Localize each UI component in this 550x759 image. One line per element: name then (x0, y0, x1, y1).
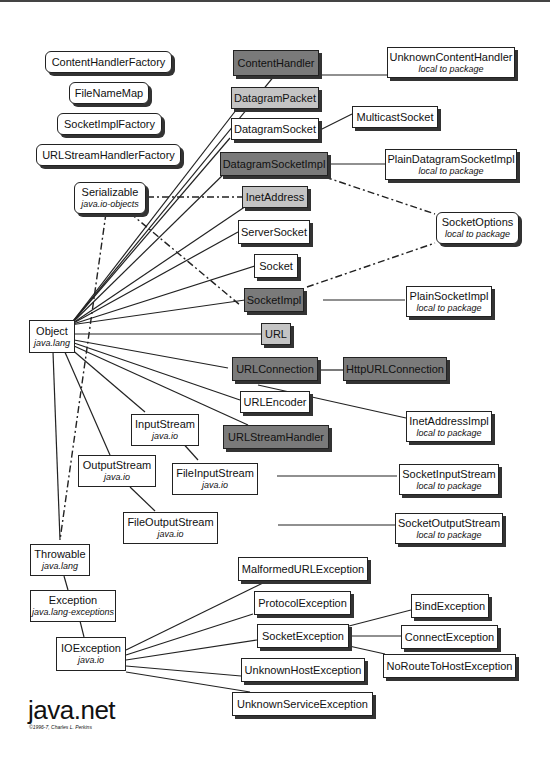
class-datagramsocket[interactable]: DatagramSocket (231, 118, 319, 140)
class-inetaddress[interactable]: InetAddress (242, 186, 308, 208)
node-label: UnknownServiceException (237, 698, 368, 711)
class-ioexception[interactable]: IOExceptionjava.io (56, 637, 126, 671)
node-label: ContentHandlerFactory (52, 56, 166, 69)
node-label: Serializable (82, 186, 139, 199)
class-serversocket[interactable]: ServerSocket (238, 220, 310, 244)
interface-filenamemap[interactable]: FileNameMap (69, 82, 149, 104)
interface-contenthandlerfactory[interactable]: ContentHandlerFactory (45, 51, 172, 73)
copyright-note: ©1996-7, Charles L. Perkins (29, 724, 92, 730)
node-label: SocketOutputStream (398, 517, 500, 530)
class-socketexception[interactable]: SocketException (257, 624, 349, 648)
class-noroutetohostexception[interactable]: NoRouteToHostException (383, 654, 516, 678)
diagram-title: java.net (28, 697, 115, 723)
node-label: DatagramPacket (234, 92, 316, 105)
node-label: UnknownHostException (245, 664, 362, 677)
interface-socketoptions[interactable]: SocketOptionslocal to package (436, 212, 519, 244)
class-datagrampacket[interactable]: DatagramPacket (231, 87, 319, 109)
node-package: java.lang (42, 561, 78, 572)
node-label: BindException (415, 600, 485, 613)
class-malformedurlexception[interactable]: MalformedURLException (238, 557, 368, 581)
class-exception[interactable]: Exceptionjava.lang-exceptions (30, 590, 116, 622)
node-label: InputStream (135, 418, 195, 431)
node-label: OutputStream (83, 459, 151, 472)
node-package: java.io (152, 431, 178, 442)
interface-urlstreamhandlerfactory[interactable]: URLStreamHandlerFactory (36, 144, 181, 166)
class-socketinputstream[interactable]: SocketInputStreamlocal to package (399, 464, 499, 495)
node-label: PlainSocketImpl (410, 290, 489, 303)
class-unknowncontenthandler[interactable]: UnknownContentHandlerlocal to package (387, 47, 515, 78)
class-plainsocketimpl[interactable]: PlainSocketImpllocal to package (406, 286, 492, 317)
class-httpurlconnection[interactable]: HttpURLConnection (343, 357, 447, 381)
node-label: SocketOptions (442, 216, 514, 229)
node-label: FileNameMap (75, 87, 143, 100)
node-label: InetAddressImpl (409, 415, 488, 428)
node-label: SocketException (262, 630, 344, 643)
interface-socketimplfactory[interactable]: SocketImplFactory (57, 113, 162, 135)
class-unknownserviceexception[interactable]: UnknownServiceException (232, 692, 373, 716)
node-package: local to package (445, 229, 510, 240)
node-label: UnknownContentHandler (390, 51, 513, 64)
class-connectexception[interactable]: ConnectException (401, 625, 498, 649)
class-unknownhostexception[interactable]: UnknownHostException (241, 658, 365, 682)
class-inetaddressimpl[interactable]: InetAddressImpllocal to package (406, 411, 492, 442)
node-label: DatagramSocket (234, 123, 316, 136)
node-label: MalformedURLException (242, 563, 364, 576)
class-protocolexception[interactable]: ProtocolException (254, 591, 351, 615)
node-label: PlainDatagramSocketImpl (387, 153, 514, 166)
node-package: local to package (416, 303, 481, 314)
node-label: Socket (259, 260, 293, 273)
class-urlencoder[interactable]: URLEncoder (240, 391, 310, 413)
class-bindexception[interactable]: BindException (411, 594, 489, 618)
node-package: java.io (78, 655, 104, 666)
node-label: HttpURLConnection (346, 363, 444, 376)
node-package: java.io (157, 529, 183, 540)
node-label: SocketImplFactory (64, 118, 155, 131)
node-package: java.io-objects (81, 199, 139, 210)
class-fileinputstream[interactable]: FileInputStreamjava.io (172, 463, 258, 495)
node-package: local to package (416, 530, 481, 541)
node-label: DatagramSocketImpl (223, 158, 326, 171)
node-label: URLStreamHandler (228, 431, 324, 444)
node-label: Throwable (34, 548, 85, 561)
class-urlconnection[interactable]: URLConnection (232, 357, 318, 381)
node-label: InetAddress (246, 191, 305, 204)
class-plaindatagramsocketimpl[interactable]: PlainDatagramSocketImpllocal to package (385, 149, 517, 180)
node-label: SocketImpl (247, 294, 301, 307)
class-contenthandler[interactable]: ContentHandler (233, 50, 319, 76)
node-label: FileOutputStream (127, 516, 213, 529)
class-socket[interactable]: Socket (254, 254, 298, 278)
node-package: java.lang-exceptions (32, 607, 114, 618)
node-label: ProtocolException (258, 597, 347, 610)
class-datagramsocketimpl[interactable]: DatagramSocketImpl (220, 152, 328, 176)
class-url[interactable]: URL (261, 323, 291, 345)
node-package: local to package (418, 64, 483, 75)
node-label: FileInputStream (176, 467, 254, 480)
class-socketoutputstream[interactable]: SocketOutputStreamlocal to package (395, 513, 503, 544)
node-label: Exception (49, 594, 97, 607)
class-multicastsocket[interactable]: MulticastSocket (352, 106, 438, 128)
node-label: MulticastSocket (356, 111, 433, 124)
class-throwable[interactable]: Throwablejava.lang (30, 544, 90, 576)
node-label: ContentHandler (237, 57, 314, 70)
class-inputstream[interactable]: InputStreamjava.io (131, 414, 199, 446)
node-package: java.lang (34, 338, 70, 349)
node-package: java.io (104, 472, 130, 483)
class-outputstream[interactable]: OutputStreamjava.io (78, 455, 156, 487)
node-label: URLStreamHandlerFactory (42, 149, 175, 162)
class-fileoutputstream[interactable]: FileOutputStreamjava.io (123, 512, 218, 544)
class-socketimpl[interactable]: SocketImpl (244, 288, 304, 312)
node-label: SocketInputStream (402, 468, 496, 481)
node-label: NoRouteToHostException (387, 660, 513, 673)
interface-serializable[interactable]: Serializablejava.io-objects (74, 182, 146, 214)
class-object[interactable]: Objectjava.lang (29, 320, 75, 353)
node-package: local to package (418, 166, 483, 177)
node-label: URLEncoder (244, 396, 307, 409)
class-urlstreamhandler[interactable]: URLStreamHandler (223, 425, 329, 449)
node-label: URL (265, 328, 287, 341)
node-label: URLConnection (236, 363, 314, 376)
node-package: java.io (202, 480, 228, 491)
node-label: Object (36, 325, 68, 338)
node-label: ServerSocket (241, 226, 307, 239)
node-label: ConnectException (405, 631, 494, 644)
node-label: IOException (61, 642, 121, 655)
